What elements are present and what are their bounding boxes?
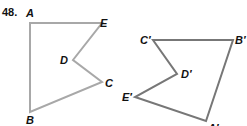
vertex-label-a: A xyxy=(25,7,34,19)
vertex-label-b-prime: B′ xyxy=(235,34,247,46)
vertex-label-b: B xyxy=(26,114,34,126)
image-pentagon xyxy=(135,40,233,121)
geometry-figure: 48. A E D C B C′ B′ D′ E′ A′ xyxy=(0,0,247,126)
vertex-label-c: C xyxy=(105,77,114,89)
vertex-label-d: D xyxy=(60,54,68,66)
vertex-label-e-prime: E′ xyxy=(122,91,133,103)
vertex-label-e: E xyxy=(100,17,108,29)
problem-number: 48. xyxy=(2,6,17,18)
vertex-label-a-prime: A′ xyxy=(207,122,220,126)
vertex-label-c-prime: C′ xyxy=(140,34,152,46)
original-pentagon xyxy=(30,23,102,112)
vertex-label-d-prime: D′ xyxy=(181,68,193,80)
